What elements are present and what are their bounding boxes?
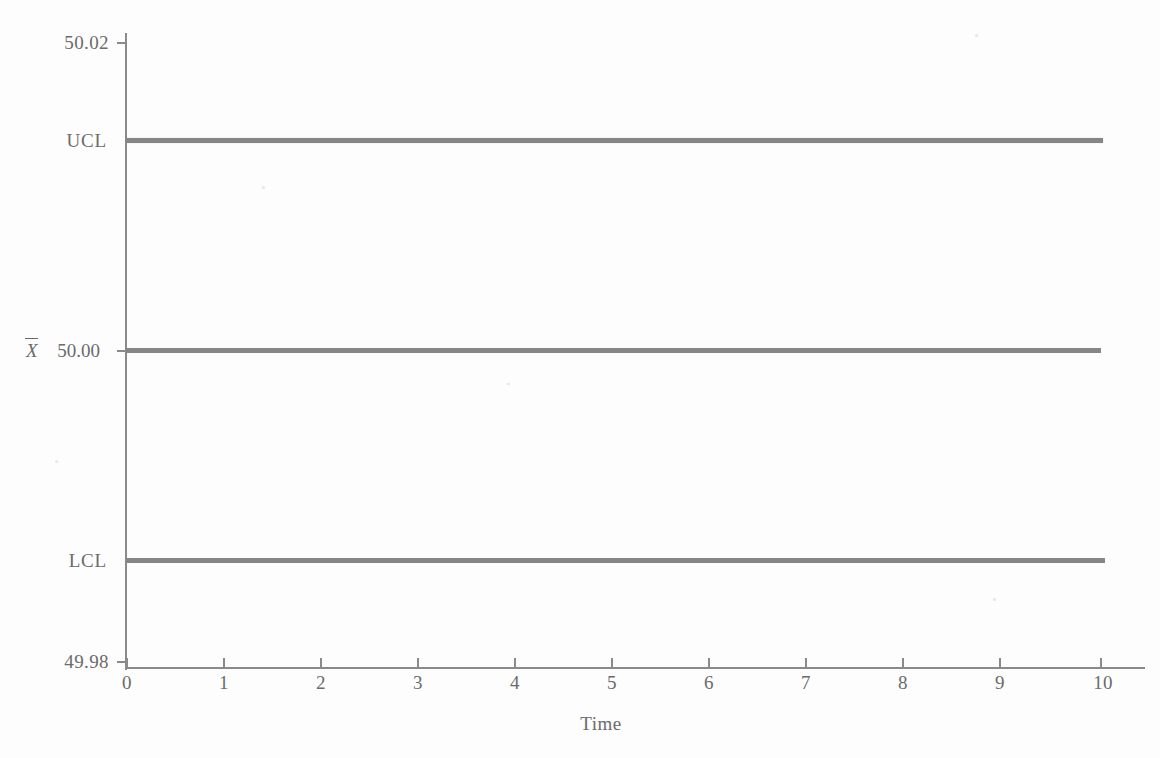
y-tick-label-49-98: 49.98 (64, 652, 109, 671)
x-bar-symbol: X (25, 341, 39, 360)
x-tick-label-7: 7 (776, 672, 836, 694)
x-axis-title: Time (0, 713, 1160, 735)
x-tick-mark-8 (902, 658, 904, 668)
x-axis-line (125, 667, 1145, 669)
x-axis-title-text: Time (580, 713, 621, 734)
ucl-label: UCL (67, 131, 107, 150)
x-tick-mark-5 (611, 658, 613, 668)
lcl-label: LCL (69, 551, 107, 570)
scan-speckle (262, 186, 265, 189)
scan-speckle (975, 34, 978, 37)
control-chart: 50.02 X 50.00 49.98 UCL LCL 0 1 2 3 4 5 … (0, 0, 1160, 758)
x-tick-label-10: 10 (1073, 672, 1133, 694)
y-tick-label-50-02: 50.02 (64, 33, 109, 52)
center-line-value: 50.00 (57, 340, 100, 361)
x-tick-mark-3 (417, 658, 419, 668)
scan-speckle (507, 383, 510, 385)
ucl-control-line (126, 138, 1103, 143)
x-tick-mark-2 (320, 658, 322, 668)
x-tick-label-2: 2 (291, 672, 351, 694)
x-tick-label-0: 0 (97, 672, 157, 694)
scan-speckle (55, 460, 58, 463)
center-control-line (126, 348, 1101, 353)
x-tick-mark-1 (223, 658, 225, 668)
x-tick-label-5: 5 (582, 672, 642, 694)
x-tick-mark-4 (514, 658, 516, 668)
x-tick-label-6: 6 (679, 672, 739, 694)
lcl-control-line (126, 558, 1105, 563)
x-tick-mark-9 (999, 658, 1001, 668)
x-tick-label-9: 9 (970, 672, 1030, 694)
x-tick-label-3: 3 (388, 672, 448, 694)
scan-speckle (993, 598, 996, 601)
x-tick-mark-0 (126, 658, 128, 668)
y-tick-mark-50-02 (117, 42, 127, 44)
x-tick-mark-6 (708, 658, 710, 668)
x-tick-mark-7 (805, 658, 807, 668)
x-tick-label-1: 1 (194, 672, 254, 694)
x-tick-label-8: 8 (873, 672, 933, 694)
x-tick-label-4: 4 (485, 672, 545, 694)
center-line-row-label: X 50.00 (25, 341, 100, 360)
x-tick-mark-10 (1100, 658, 1102, 668)
